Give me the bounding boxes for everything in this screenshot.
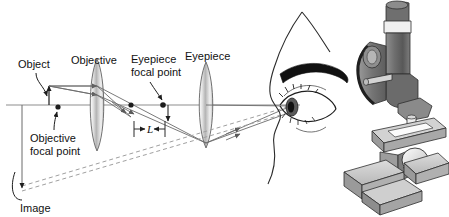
- microscope-icon: [344, 1, 449, 215]
- objective-focal-point-dot: [55, 104, 60, 109]
- objective-focal-point-label-line1: Objective: [30, 132, 76, 144]
- tube-length-dimension: L: [134, 121, 165, 137]
- object-leader: [36, 73, 47, 96]
- microscope-stage: [372, 118, 446, 152]
- eyepiece-focal-point-label-line1: Eyepiece: [131, 53, 176, 65]
- objective-label: Objective: [71, 54, 117, 66]
- eyepiece-focal-point-leader: [150, 82, 162, 100]
- microscope-ray-diagram-figure: L Object Objective Objective focal point…: [0, 0, 449, 217]
- image-label: Image: [20, 202, 51, 214]
- tube-length-label: L: [146, 123, 153, 135]
- objective-focal-point-leader: [54, 112, 57, 130]
- diagram-canvas: L Object Objective Objective focal point…: [0, 0, 449, 217]
- microscope-eyepiece-tube: [384, 1, 418, 108]
- eyepiece-label: Eyepiece: [185, 50, 230, 62]
- object-label: Object: [18, 58, 50, 70]
- objective-lens: [90, 59, 104, 151]
- eye-icon: [268, 12, 348, 184]
- eyepiece-focal-point-dot: [160, 102, 166, 108]
- eyepiece-focal-point-label-line2: focal point: [131, 66, 181, 78]
- objective-focal-point-label-line2: focal point: [30, 145, 80, 157]
- image-leader: [12, 172, 22, 200]
